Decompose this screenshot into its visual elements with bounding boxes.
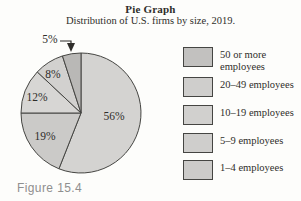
figure-container: Pie Graph Distribution of U.S. firms by … xyxy=(0,0,301,201)
slice-label-19: 19% xyxy=(34,130,55,142)
chart-subtitle: Distribution of U.S. firms by size, 2019… xyxy=(0,15,301,26)
callout-arrow-icon xyxy=(60,34,76,54)
legend-item-label: 5–9 employees xyxy=(220,133,301,147)
legend-item-label: 10–19 employees xyxy=(220,105,301,119)
legend-swatch xyxy=(183,133,213,153)
slice-label-56: 56% xyxy=(103,110,124,122)
legend-swatch xyxy=(183,105,213,125)
slice-label-12: 12% xyxy=(26,91,47,103)
chart-title: Pie Graph xyxy=(0,3,301,15)
legend-item-1-4: 1–4 employees xyxy=(183,160,301,180)
figure-label: Figure 15.4 xyxy=(17,181,82,195)
legend-item-10-19: 10–19 employees xyxy=(183,105,301,125)
legend-swatch xyxy=(183,160,213,180)
slice-label-5: 5% xyxy=(42,33,57,45)
legend: 50 or more employees 20–49 employees 10–… xyxy=(183,47,297,179)
legend-item-5-9: 5–9 employees xyxy=(183,133,301,153)
legend-item-50-or-more: 50 or more employees xyxy=(183,47,301,73)
legend-swatch xyxy=(183,47,213,67)
slice-label-8: 8% xyxy=(45,68,60,80)
legend-item-20-49: 20–49 employees xyxy=(183,77,301,97)
legend-swatch xyxy=(183,77,213,97)
legend-item-label: 1–4 employees xyxy=(220,160,301,174)
legend-item-label: 20–49 employees xyxy=(220,77,301,91)
legend-item-label: 50 or more employees xyxy=(220,47,301,73)
